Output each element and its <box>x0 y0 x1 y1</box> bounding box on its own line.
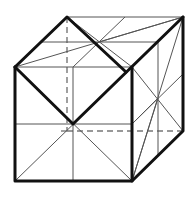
cube-diagram <box>0 0 196 197</box>
